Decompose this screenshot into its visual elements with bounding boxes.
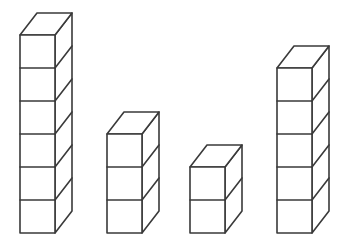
tower-3 — [190, 145, 242, 233]
tower-4 — [277, 46, 329, 233]
cube-stacks-figure — [0, 0, 344, 246]
tower-1 — [20, 13, 72, 233]
figure-canvas — [0, 0, 344, 246]
stack-front-face — [277, 68, 312, 233]
stack-right-face — [312, 46, 329, 233]
stack-front-face — [107, 134, 142, 233]
tower-2 — [107, 112, 159, 233]
